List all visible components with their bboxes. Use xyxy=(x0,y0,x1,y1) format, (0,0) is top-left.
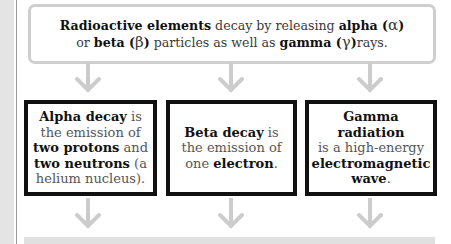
beta-symbol: β xyxy=(135,33,144,51)
card-text: helium nucleus). xyxy=(33,171,148,187)
term-wave: wave xyxy=(351,171,386,186)
intro-line-2: or beta (β) particles as well as gamma (… xyxy=(60,34,404,51)
next-section-box xyxy=(24,237,435,244)
down-arrow-icon xyxy=(354,62,386,94)
intro-text-fragment: particles as well as xyxy=(150,35,280,50)
down-arrow-icon xyxy=(72,62,104,94)
term-electromagnetic: electromagnetic xyxy=(309,156,433,172)
card-text: . xyxy=(274,156,278,171)
intro-text: Radioactive elements decay by releasing … xyxy=(60,17,404,51)
intro-text-fragment: decay by releasing xyxy=(211,18,339,33)
card-text: and xyxy=(119,140,148,155)
term-radioactive-elements: Radioactive elements xyxy=(60,18,211,33)
card-title: Gamma radiation xyxy=(309,109,433,140)
card-title: Beta decay xyxy=(184,125,263,140)
card-text: is xyxy=(127,109,142,124)
gamma-symbol: γ xyxy=(342,33,351,51)
alpha-symbol: α xyxy=(388,16,398,34)
term-alpha: alpha ( xyxy=(339,18,388,33)
term-gamma: gamma ( xyxy=(280,35,342,50)
card-text: (a xyxy=(130,156,147,171)
term-beta: beta ( xyxy=(94,35,135,50)
card-title: Alpha decay xyxy=(39,109,127,124)
intro-text-fragment: rays. xyxy=(357,35,388,50)
down-arrow-icon xyxy=(215,62,247,94)
intro-line-1: Radioactive elements decay by releasing … xyxy=(60,17,404,34)
term-two-neutrons: two neutrons xyxy=(34,156,130,171)
intro-text-fragment: or xyxy=(76,35,94,50)
card-text: the emission of xyxy=(181,140,281,156)
card-text: the emission of xyxy=(33,125,148,141)
card-alpha-decay: Alpha decay is the emission of two proto… xyxy=(24,100,157,196)
card-text: is xyxy=(264,125,279,140)
card-text: . xyxy=(387,171,391,186)
card-text: one xyxy=(185,156,213,171)
card-gamma-radiation: Gamma radiation is a high-energy electro… xyxy=(305,100,437,196)
card-beta-decay: Beta decay is the emission of one electr… xyxy=(166,100,297,196)
page-margin-strip xyxy=(0,0,14,244)
intro-box: Radioactive elements decay by releasing … xyxy=(28,4,436,64)
term-electron: electron xyxy=(213,156,273,171)
term-two-protons: two protons xyxy=(33,140,119,155)
down-arrow-icon xyxy=(215,198,247,230)
margin-rule xyxy=(16,0,17,244)
paren-close: ) xyxy=(398,18,404,33)
down-arrow-icon xyxy=(72,198,104,230)
card-text: is a high-energy xyxy=(309,140,433,156)
down-arrow-icon xyxy=(354,198,386,230)
